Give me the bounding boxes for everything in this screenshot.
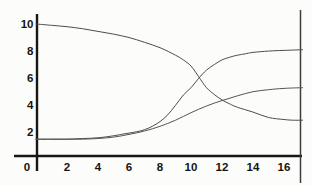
chart-canvas: 0246810121416246810 (0, 0, 312, 185)
rising-sigmoid-curve (36, 50, 303, 140)
x-tick-label: 12 (216, 161, 229, 173)
x-tick-label: 0 (24, 161, 30, 173)
x-tick-label: 4 (95, 161, 102, 173)
y-tick-label: 10 (21, 18, 34, 30)
x-tick-label: 10 (185, 161, 198, 173)
y-tick-label: 8 (27, 45, 34, 57)
curve-group (36, 24, 303, 139)
x-tick-label: 14 (247, 161, 260, 173)
x-tick-label: 8 (157, 161, 164, 173)
tick-label-group: 0246810121416246810 (21, 18, 291, 173)
x-tick-label: 6 (126, 161, 132, 173)
x-tick-label: 2 (64, 161, 70, 173)
y-tick-label: 2 (27, 126, 33, 138)
x-tick-label: 16 (278, 161, 291, 173)
line-chart-figure: 0246810121416246810 (0, 0, 312, 185)
descending-curve (36, 24, 303, 120)
y-tick-label: 6 (27, 72, 33, 84)
y-tick-label: 4 (27, 99, 34, 111)
